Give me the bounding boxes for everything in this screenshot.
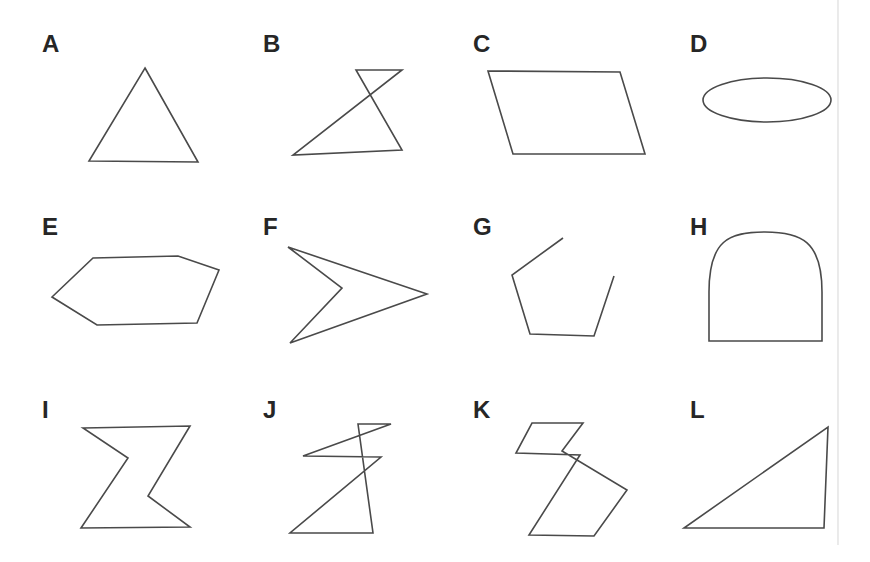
- shape-f-concave-arrowhead[interactable]: [288, 247, 427, 343]
- shape-label-b: B: [263, 30, 280, 57]
- shape-label-j: J: [263, 396, 276, 423]
- shape-g-open-polyline-pentagon[interactable]: [512, 238, 614, 336]
- shape-j-double-bowtie-hexagon[interactable]: [290, 424, 391, 533]
- shape-label-k: K: [473, 396, 491, 423]
- shape-label-i: I: [42, 396, 49, 423]
- shape-e-hexagon[interactable]: [52, 256, 219, 325]
- shape-c-parallelogram[interactable]: [488, 71, 645, 154]
- shape-k-self-intersecting-octagon[interactable]: [516, 423, 627, 536]
- shape-l-right-triangle[interactable]: [684, 427, 828, 528]
- shape-b-self-intersecting-quadrilateral[interactable]: [293, 70, 402, 155]
- shape-d-ellipse[interactable]: [703, 78, 831, 122]
- shape-figure-canvas: ABCDEFGHIJKL: [0, 0, 870, 562]
- worksheet-page: ABCDEFGHIJKL: [0, 0, 870, 562]
- shape-label-h: H: [690, 213, 707, 240]
- shape-label-g: G: [473, 213, 492, 240]
- shape-label-c: C: [473, 30, 490, 57]
- shape-i-zigzag-hexagon[interactable]: [81, 426, 190, 528]
- shape-label-e: E: [42, 213, 58, 240]
- shape-label-d: D: [690, 30, 707, 57]
- shape-label-f: F: [263, 213, 278, 240]
- shape-label-a: A: [42, 30, 59, 57]
- shape-group: [52, 68, 831, 536]
- shape-a-triangle[interactable]: [89, 68, 198, 162]
- shape-label-l: L: [690, 396, 705, 423]
- shape-label-group: ABCDEFGHIJKL: [42, 30, 707, 423]
- shape-h-arch-dome[interactable]: [709, 232, 822, 341]
